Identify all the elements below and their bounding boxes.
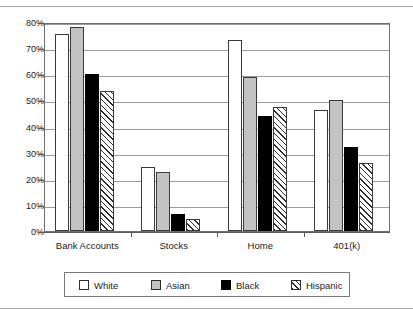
bar [314, 110, 328, 231]
x-axis-tick-mark [131, 232, 132, 237]
black-swatch-icon [221, 280, 231, 290]
bar [156, 172, 170, 231]
bar [186, 219, 200, 231]
bar-group [228, 24, 287, 231]
legend-item[interactable]: White [79, 279, 118, 291]
legend-item[interactable]: Asian [151, 279, 190, 291]
hatched-swatch-icon [291, 280, 301, 290]
plot-area [44, 23, 390, 232]
bar [171, 214, 185, 231]
x-axis-category-label: Stocks [159, 240, 188, 251]
bottom-rule [0, 308, 413, 309]
bar-group [55, 24, 114, 231]
bar [70, 27, 84, 231]
x-axis-category-label: Home [248, 240, 273, 251]
x-axis-tick-mark [217, 232, 218, 237]
x-axis-category-label: 401(k) [333, 240, 360, 251]
x-axis-category-label: Bank Accounts [56, 240, 119, 251]
bar [55, 34, 69, 231]
top-rule [0, 6, 413, 7]
y-axis: 0%10%20%30%40%50%60%70%80% [0, 0, 44, 317]
legend-label: Asian [166, 280, 190, 291]
bar [85, 74, 99, 231]
x-axis-tick-mark [304, 232, 305, 237]
bar [359, 163, 373, 231]
bar [258, 116, 272, 231]
bar [344, 147, 358, 231]
bar-group [141, 24, 200, 231]
bar [329, 100, 343, 231]
chart-legend: WhiteAsianBlackHispanic [64, 272, 350, 297]
legend-item[interactable]: Hispanic [291, 279, 342, 291]
white-swatch-icon [79, 280, 89, 290]
bar [228, 40, 242, 231]
bar-group [314, 24, 373, 231]
legend-label: White [94, 280, 118, 291]
bar [243, 77, 257, 231]
bar [100, 91, 114, 231]
bar [141, 167, 155, 231]
gray-swatch-icon [151, 280, 161, 290]
bar [273, 107, 287, 231]
legend-item[interactable]: Black [221, 279, 259, 291]
bar-chart-figure: 0%10%20%30%40%50%60%70%80% Bank Accounts… [0, 0, 413, 317]
legend-label: Black [236, 280, 259, 291]
legend-label: Hispanic [306, 280, 342, 291]
